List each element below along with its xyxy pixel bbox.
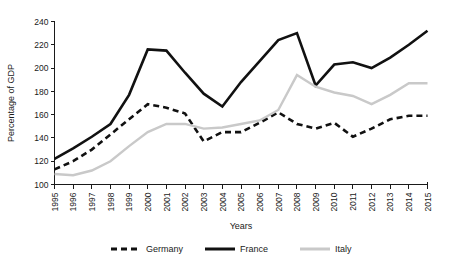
- x-tick-label: 2014: [404, 192, 414, 211]
- x-axis-title: Years: [230, 221, 253, 231]
- y-axis-title: Percentage of GDP: [6, 64, 16, 142]
- x-tick-label: 2000: [143, 192, 153, 211]
- chart-series-group: [55, 31, 428, 175]
- x-tick-label: 2013: [385, 192, 395, 211]
- x-tick-label: 2012: [367, 192, 377, 211]
- legend-label-germany[interactable]: Germany: [146, 244, 184, 254]
- x-tick-label: 2004: [218, 192, 228, 211]
- chart-container: 100120140160180200220240 199519961997199…: [0, 0, 451, 266]
- x-tick-label: 2003: [199, 192, 209, 211]
- x-tick-label: 2001: [162, 192, 172, 211]
- x-tick-label: 2005: [236, 192, 246, 211]
- x-tick-label: 1998: [106, 192, 116, 211]
- series-line-france: [55, 31, 428, 159]
- x-tick-label: 2006: [255, 192, 265, 211]
- y-tick-label: 140: [34, 133, 48, 143]
- legend-label-italy[interactable]: Italy: [335, 244, 352, 254]
- x-tick-label: 2002: [180, 192, 190, 211]
- x-tick-label: 2008: [292, 192, 302, 211]
- chart-legend: GermanyFranceItaly: [111, 244, 352, 254]
- y-tick-label: 180: [34, 87, 48, 97]
- y-tick-label: 120: [34, 156, 48, 166]
- x-tick-label: 2011: [348, 192, 358, 211]
- line-chart: 100120140160180200220240 199519961997199…: [0, 0, 451, 266]
- x-axis: 1995199619971998199920002001200220032004…: [50, 182, 433, 212]
- y-tick-label: 160: [34, 110, 48, 120]
- x-tick-label: 1999: [124, 192, 134, 211]
- y-tick-label: 240: [34, 17, 48, 27]
- x-tick-label: 2007: [274, 192, 284, 211]
- x-tick-label: 2015: [423, 192, 433, 211]
- y-axis: 100120140160180200220240: [34, 17, 54, 190]
- x-tick-label: 1996: [68, 192, 78, 211]
- y-tick-label: 220: [34, 40, 48, 50]
- legend-label-france[interactable]: France: [240, 244, 268, 254]
- series-line-germany: [55, 104, 428, 169]
- y-tick-label: 200: [34, 63, 48, 73]
- x-tick-label: 1995: [50, 192, 60, 211]
- x-tick-label: 1997: [87, 192, 97, 211]
- x-tick-label: 2010: [329, 192, 339, 211]
- x-tick-label: 2009: [311, 192, 321, 211]
- y-tick-label: 100: [34, 180, 48, 190]
